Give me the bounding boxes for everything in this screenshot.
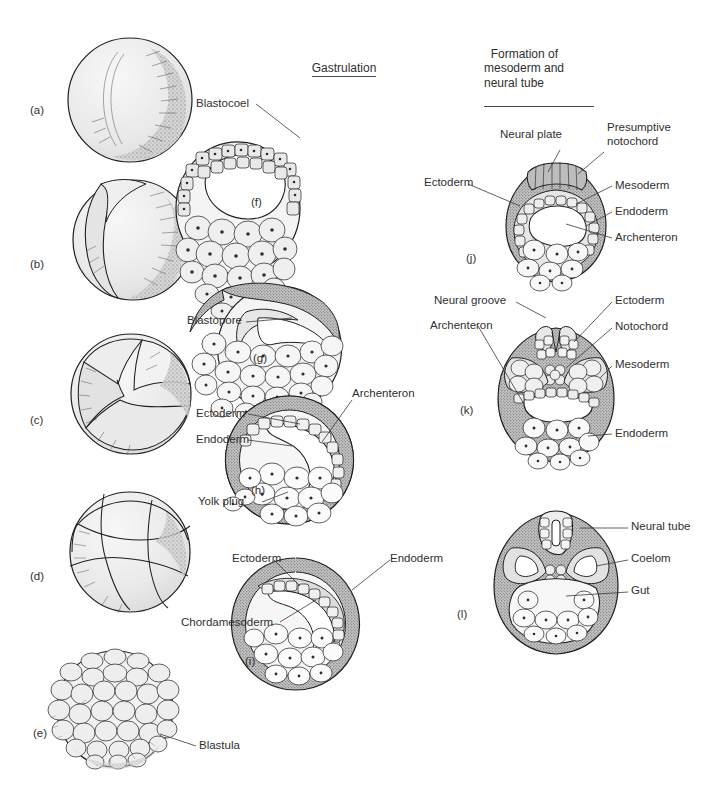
label-archenteron-h: Archenteron — [352, 387, 415, 401]
header-formation: Formation of mesoderm and neural tube — [484, 32, 594, 121]
label-neural-tube: Neural tube — [631, 520, 690, 534]
label-mesoderm-k: Mesoderm — [615, 358, 669, 372]
label-blastopore: Blastopore — [187, 314, 242, 328]
panel-label-l: (l) — [457, 608, 467, 620]
label-endoderm-i: Endoderm — [390, 552, 443, 566]
panel-j-artwork — [506, 162, 606, 291]
panel-a-artwork — [68, 38, 192, 162]
label-ectoderm-i: Ectoderm — [232, 552, 281, 566]
label-blastocoel: Blastocoel — [196, 97, 249, 111]
panel-label-g: (g) — [253, 352, 267, 364]
label-ectoderm-j: Ectoderm — [424, 176, 473, 190]
panel-label-d: (d) — [30, 570, 44, 582]
panel-label-b: (b) — [30, 258, 44, 270]
panel-k-artwork — [498, 327, 614, 470]
panel-e-artwork — [48, 649, 179, 769]
label-endoderm-j: Endoderm — [615, 205, 668, 219]
label-presumptive-notochord: Presumptive notochord — [607, 121, 671, 148]
panel-c-artwork — [71, 334, 191, 455]
label-mesoderm-j: Mesoderm — [615, 179, 669, 193]
label-notochord-k: Notochord — [615, 320, 668, 334]
header-formation-text: Formation of mesoderm and neural tube — [484, 47, 564, 90]
label-archenteron-j: Archenteron — [615, 231, 678, 245]
header-gastrulation: Gastrulation — [305, 46, 376, 75]
panel-label-e: (e) — [33, 727, 47, 739]
label-ectoderm-h: Ectoderm — [196, 407, 245, 421]
panel-l-artwork — [494, 511, 618, 654]
panel-label-c: (c) — [30, 414, 43, 426]
panel-label-h: (h) — [251, 484, 265, 496]
label-gut: Gut — [631, 584, 650, 598]
panel-label-a: (a) — [30, 104, 44, 116]
label-ectoderm-k: Ectoderm — [615, 294, 664, 308]
label-neural-groove: Neural groove — [434, 294, 506, 308]
label-endoderm-k: Endoderm — [615, 427, 668, 441]
label-neural-plate: Neural plate — [500, 128, 562, 142]
panel-label-k: (k) — [460, 404, 473, 416]
panel-label-j: (j) — [466, 252, 476, 264]
label-blastula: Blastula — [199, 739, 240, 753]
label-coelom: Coelom — [631, 552, 671, 566]
label-yolk-plug: Yolk plug — [198, 495, 244, 509]
panel-d-artwork — [70, 492, 190, 613]
header-underline — [484, 106, 594, 107]
panel-label-f: (f) — [251, 196, 262, 208]
label-archenteron-k: Archenteron — [430, 319, 493, 333]
panel-label-i: (i) — [245, 655, 255, 667]
panel-b-artwork — [73, 180, 193, 301]
label-chordamesoderm: Chordamesoderm — [181, 616, 273, 630]
label-endoderm-h: Endoderm — [196, 433, 249, 447]
